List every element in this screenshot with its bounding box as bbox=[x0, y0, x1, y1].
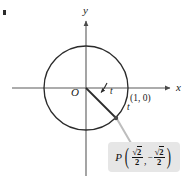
callout-y-denominator: 2 bbox=[157, 158, 161, 167]
callout-comma: , bbox=[144, 156, 147, 167]
callout-x-coordinate: √2 2 bbox=[132, 148, 143, 167]
y-axis-label: y bbox=[82, 4, 88, 16]
point-p-coordinate-callout: P ( √2 2 , − √2 2 ) bbox=[108, 142, 180, 172]
callout-close-paren: ) bbox=[167, 148, 171, 167]
callout-minus-sign: − bbox=[148, 153, 153, 162]
x-axis-label: x bbox=[175, 81, 181, 93]
radicand-y: 2 bbox=[159, 146, 164, 157]
callout-y-numerator: √2 bbox=[154, 148, 165, 157]
callout-x-denominator: 2 bbox=[135, 158, 139, 167]
point-one-zero-label: (1, 0) bbox=[130, 93, 151, 104]
callout-x-numerator: √2 bbox=[132, 148, 143, 157]
unit-circle-figure: y x O t t (1, 0) P ( √2 2 , − √2 2 ) bbox=[0, 0, 187, 181]
arc-label-t: t bbox=[127, 102, 130, 112]
callout-open-paren: ( bbox=[125, 148, 129, 167]
callout-content: P ( √2 2 , − √2 2 ) bbox=[115, 148, 173, 167]
angle-label-t: t bbox=[110, 86, 113, 96]
radicand-x: 2 bbox=[137, 146, 142, 157]
origin-label: O bbox=[71, 86, 79, 98]
point-p-marker bbox=[114, 116, 118, 120]
callout-point-name: P bbox=[115, 152, 122, 163]
callout-leader-line bbox=[117, 119, 131, 143]
callout-y-coordinate: √2 2 bbox=[154, 148, 165, 167]
